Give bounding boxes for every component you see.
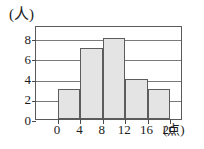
- y-tick-label-4: 4: [25, 73, 32, 86]
- y-axis-tick-labels: 02468: [14, 26, 31, 120]
- y-tick-label-6: 6: [25, 53, 32, 66]
- x-tick-0: [58, 119, 59, 124]
- x-tick-8: [103, 119, 104, 124]
- y-tick-label-2: 2: [25, 93, 32, 106]
- x-tick-20: [170, 119, 171, 124]
- x-tick-label-0: 0: [54, 123, 61, 137]
- plot-area: [35, 26, 182, 120]
- x-axis-tick-labels: 048121620: [35, 123, 182, 141]
- y-tick-label-0: 0: [25, 114, 32, 127]
- y-axis-unit-label: (人): [9, 6, 34, 22]
- x-tick-12: [125, 119, 126, 124]
- x-tick-label-4: 4: [76, 123, 83, 137]
- bar-12-16: [125, 79, 147, 119]
- y-tick-label-8: 8: [25, 33, 32, 46]
- x-tick-label-12: 12: [118, 123, 131, 137]
- bar-8-12: [103, 38, 125, 119]
- x-tick-4: [80, 119, 81, 124]
- x-axis-unit-label: (点): [163, 123, 185, 137]
- bar-0-4: [58, 89, 80, 119]
- bars-group: [36, 27, 181, 119]
- x-tick-16: [148, 119, 149, 124]
- x-tick-label-16: 16: [140, 123, 153, 137]
- y-tick-0: [32, 121, 36, 122]
- x-tick-label-8: 8: [99, 123, 106, 137]
- bar-4-8: [80, 48, 102, 119]
- bar-16-20: [148, 89, 170, 119]
- histogram-chart: (人) 02468 048121620 (点): [0, 0, 204, 149]
